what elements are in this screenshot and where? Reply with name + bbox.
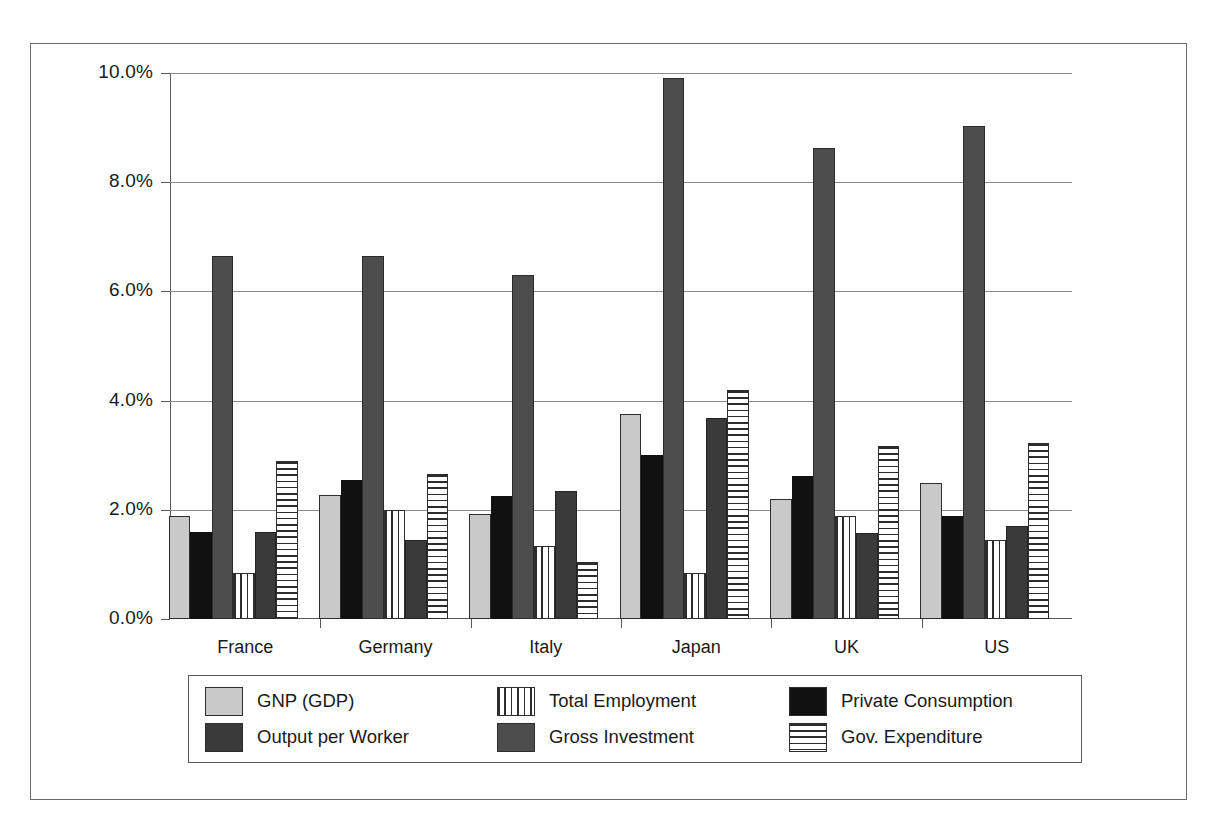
bar-gross-france <box>212 256 234 619</box>
bar-emp-germany <box>384 510 406 619</box>
chart-legend: GNP (GDP)Total EmploymentPrivate Consump… <box>188 675 1082 763</box>
x-axis-label-us: US <box>922 637 1072 658</box>
chart-figure: 0.0%2.0%4.0%6.0%8.0%10.0% FranceGermanyI… <box>0 0 1215 821</box>
x-tick-mark <box>320 619 321 628</box>
legend-label: Output per Worker <box>257 726 409 748</box>
legend-label: GNP (GDP) <box>257 690 354 712</box>
y-tick-mark <box>161 401 170 402</box>
bar-gnp-italy <box>469 514 491 619</box>
legend-swatch-icon <box>789 687 827 716</box>
bar-gross-germany <box>362 256 384 619</box>
legend-item: GNP (GDP) <box>205 683 497 719</box>
legend-swatch-icon <box>205 723 243 752</box>
bar-gnp-france <box>169 516 191 619</box>
bar-gov-france <box>276 461 298 619</box>
legend-label: Private Consumption <box>841 690 1013 712</box>
x-axis-label-japan: Japan <box>621 637 771 658</box>
gridline <box>170 182 1072 183</box>
bar-gov-japan <box>727 390 749 619</box>
bar-gnp-germany <box>319 495 341 619</box>
gridline <box>170 401 1072 402</box>
bar-emp-us <box>985 540 1007 619</box>
x-tick-mark <box>621 619 622 628</box>
bar-priv-france <box>190 532 212 619</box>
bar-priv-us <box>942 516 964 619</box>
legend-swatch-icon <box>789 723 827 752</box>
y-tick-mark <box>161 510 170 511</box>
x-axis-label-germany: Germany <box>320 637 470 658</box>
bar-gov-uk <box>878 446 900 619</box>
bar-emp-uk <box>835 516 857 619</box>
legend-swatch-icon <box>205 687 243 716</box>
bar-emp-italy <box>534 546 556 619</box>
bar-gnp-us <box>920 483 942 620</box>
bar-gross-japan <box>663 78 685 619</box>
y-tick-label: 10.0% <box>33 61 153 83</box>
x-tick-mark <box>771 619 772 628</box>
y-tick-label: 0.0% <box>33 607 153 629</box>
y-tick-mark <box>161 73 170 74</box>
x-axis-label-italy: Italy <box>471 637 621 658</box>
bar-priv-uk <box>792 476 814 619</box>
legend-item: Gross Investment <box>497 719 789 755</box>
legend-grid: GNP (GDP)Total EmploymentPrivate Consump… <box>189 676 1081 762</box>
gridline <box>170 291 1072 292</box>
bar-emp-japan <box>684 573 706 619</box>
bar-gov-germany <box>427 474 449 619</box>
legend-label: Gov. Expenditure <box>841 726 983 748</box>
legend-item: Private Consumption <box>789 683 1081 719</box>
legend-swatch-icon <box>497 723 535 752</box>
bar-opw-japan <box>706 418 728 619</box>
x-axis-label-uk: UK <box>771 637 921 658</box>
y-tick-label: 8.0% <box>33 170 153 192</box>
bar-emp-france <box>233 573 255 619</box>
plot-area <box>170 73 1072 619</box>
legend-label: Gross Investment <box>549 726 694 748</box>
x-tick-mark <box>922 619 923 628</box>
bar-opw-us <box>1006 526 1028 619</box>
x-axis-label-france: France <box>170 637 320 658</box>
x-tick-mark <box>471 619 472 628</box>
y-tick-mark <box>161 619 170 620</box>
y-tick-mark <box>161 182 170 183</box>
y-tick-label: 4.0% <box>33 389 153 411</box>
bar-gross-italy <box>512 275 534 619</box>
legend-item: Total Employment <box>497 683 789 719</box>
bar-opw-germany <box>405 540 427 619</box>
legend-label: Total Employment <box>549 690 696 712</box>
y-tick-label: 2.0% <box>33 498 153 520</box>
bar-gov-us <box>1028 443 1050 619</box>
y-tick-mark <box>161 291 170 292</box>
bar-priv-italy <box>491 496 513 619</box>
bar-priv-japan <box>641 455 663 619</box>
bar-opw-italy <box>555 491 577 619</box>
gridline <box>170 73 1072 74</box>
bar-priv-germany <box>341 480 363 619</box>
bar-gov-italy <box>577 562 599 619</box>
y-tick-label: 6.0% <box>33 279 153 301</box>
legend-swatch-icon <box>497 687 535 716</box>
bar-gnp-japan <box>620 414 642 619</box>
bar-opw-france <box>255 532 277 619</box>
bar-gross-uk <box>813 148 835 619</box>
legend-item: Gov. Expenditure <box>789 719 1081 755</box>
bar-opw-uk <box>856 533 878 619</box>
bar-gnp-uk <box>770 499 792 619</box>
bar-gross-us <box>963 126 985 619</box>
legend-item: Output per Worker <box>205 719 497 755</box>
